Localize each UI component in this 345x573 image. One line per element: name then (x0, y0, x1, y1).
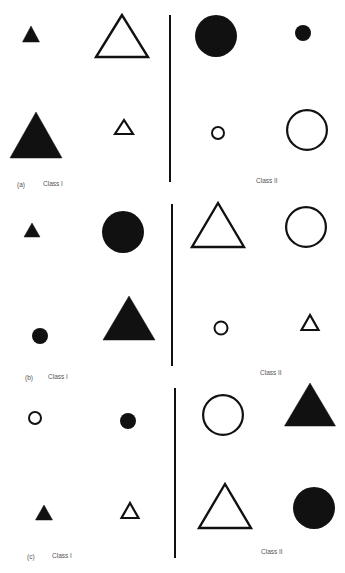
small-filled-circle-icon (120, 413, 136, 429)
small-filled-circle-icon (32, 328, 48, 344)
large-outline-circle-icon (287, 110, 327, 150)
panel-b-class2-label: Class II (260, 369, 282, 376)
small-outline-circle-icon (212, 127, 224, 139)
large-filled-triangle-icon (103, 296, 155, 340)
panel-c-class2-label: Class II (261, 548, 283, 555)
small-outline-triangle-icon (122, 503, 139, 518)
small-filled-triangle-icon (24, 223, 40, 237)
large-filled-triangle-icon (10, 112, 62, 158)
panel-a-label: (a) (17, 181, 25, 188)
large-outline-triangle-icon (192, 203, 244, 247)
small-outline-circle-icon (29, 412, 41, 424)
small-filled-triangle-icon (23, 26, 40, 42)
small-outline-triangle-icon (115, 120, 133, 134)
large-filled-circle-icon (195, 15, 237, 57)
panel-b-class1-label: Class I (48, 373, 68, 380)
large-filled-circle-icon (102, 211, 144, 253)
large-filled-triangle-icon (285, 383, 336, 426)
large-outline-triangle-icon (199, 484, 251, 528)
large-outline-circle-icon (203, 395, 243, 435)
large-outline-triangle-icon (96, 15, 148, 57)
small-outline-triangle-icon (302, 315, 319, 330)
small-filled-circle-icon (295, 25, 311, 41)
large-outline-circle-icon (286, 207, 326, 247)
figure-canvas (0, 0, 345, 573)
small-filled-triangle-icon (36, 505, 53, 520)
panel-c-label: (c) (27, 553, 35, 560)
panel-a-class1-label: Class I (43, 180, 63, 187)
small-outline-circle-icon (215, 322, 228, 335)
panel-c-class1-label: Class I (52, 552, 72, 559)
large-filled-circle-icon (293, 487, 335, 529)
panel-b-label: (b) (25, 374, 33, 381)
panel-a-class2-label: Class II (256, 177, 278, 184)
